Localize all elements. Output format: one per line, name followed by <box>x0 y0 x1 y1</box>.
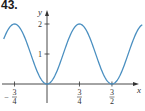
svg-text:4: 4 <box>13 97 17 106</box>
function-graph: xy 1234−3432 <box>0 0 145 111</box>
cosine-curve <box>4 24 143 84</box>
axis-ticks: 1234−3432 <box>4 20 114 106</box>
y-axis-label: y <box>37 7 42 17</box>
x-axis-label: x <box>136 85 141 95</box>
y-tick-label: 2 <box>38 20 42 29</box>
svg-text:3: 3 <box>13 88 17 97</box>
svg-text:3: 3 <box>77 88 81 97</box>
x-tick-label: 34− <box>4 88 17 106</box>
svg-text:2: 2 <box>110 97 114 106</box>
svg-text:−: − <box>4 93 9 102</box>
svg-text:3: 3 <box>110 88 114 97</box>
y-tick-label: 1 <box>38 50 42 59</box>
svg-text:4: 4 <box>77 97 81 106</box>
y-axis-arrow-icon <box>45 10 49 16</box>
x-tick-label: 32 <box>109 88 114 106</box>
x-tick-label: 34 <box>77 88 82 106</box>
axes: xy <box>2 7 141 103</box>
